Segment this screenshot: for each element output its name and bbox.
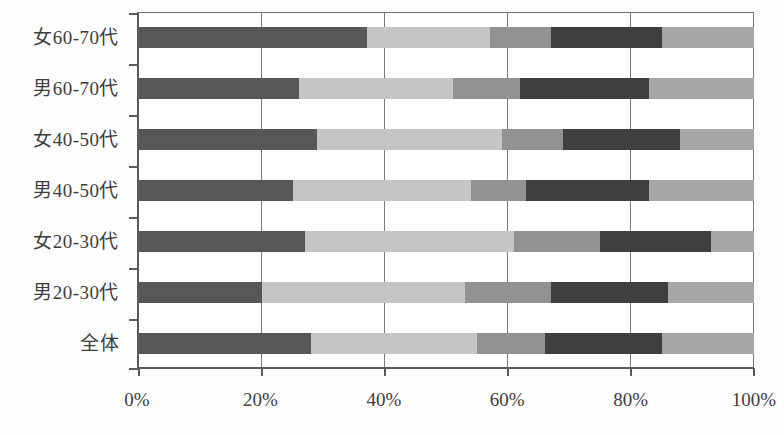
bar-女20-30代	[139, 231, 754, 252]
bar-segment-segment-1-dark-gray	[139, 282, 262, 303]
bar-segment-segment-2-light-gray	[317, 129, 502, 150]
bar-segment-segment-2-light-gray	[262, 282, 465, 303]
plot-area	[137, 12, 754, 369]
bar-segment-segment-4-darkest-gray	[600, 231, 711, 252]
bar-segment-segment-1-dark-gray	[139, 333, 311, 354]
bar-男20-30代	[139, 282, 754, 303]
bar-segment-segment-4-darkest-gray	[526, 180, 649, 201]
y-axis-tick	[129, 319, 138, 321]
x-axis-tick	[261, 368, 263, 376]
category-label: 男20-30代	[0, 267, 119, 318]
y-axis-labels: 女60-70代男60-70代女40-50代男40-50代女20-30代男20-3…	[0, 12, 127, 369]
y-axis-tick	[129, 217, 138, 219]
bar-segment-segment-1-dark-gray	[139, 78, 299, 99]
x-axis-tick	[507, 368, 509, 376]
bar-segment-segment-5-medium-light-gray	[668, 282, 754, 303]
bar-segment-segment-1-dark-gray	[139, 27, 367, 48]
x-axis-labels: 0%20%40%60%80%100%	[137, 389, 754, 419]
bar-segment-segment-5-medium-light-gray	[662, 333, 754, 354]
bar-segment-segment-3-medium-gray	[465, 282, 551, 303]
category-label: 男40-50代	[0, 165, 119, 216]
x-axis-tick	[630, 368, 632, 376]
x-tick-label: 80%	[613, 389, 648, 411]
bar-全体	[139, 333, 754, 354]
bar-segment-segment-5-medium-light-gray	[649, 78, 754, 99]
y-axis-tick	[129, 64, 138, 66]
bar-segment-segment-4-darkest-gray	[563, 129, 680, 150]
bar-segment-segment-1-dark-gray	[139, 231, 305, 252]
bar-segment-segment-3-medium-gray	[502, 129, 564, 150]
bar-segment-segment-2-light-gray	[367, 27, 490, 48]
bar-segment-segment-2-light-gray	[305, 231, 514, 252]
x-tick-label: 100%	[732, 389, 776, 411]
bar-segment-segment-3-medium-gray	[514, 231, 600, 252]
x-axis-tick	[753, 368, 755, 376]
category-label: 女40-50代	[0, 114, 119, 165]
bar-segment-segment-3-medium-gray	[490, 27, 552, 48]
y-axis-tick	[129, 13, 138, 15]
bar-segment-segment-2-light-gray	[311, 333, 477, 354]
bar-segment-segment-3-medium-gray	[477, 333, 545, 354]
category-label: 女20-30代	[0, 216, 119, 267]
bar-男60-70代	[139, 78, 754, 99]
bar-segment-segment-4-darkest-gray	[545, 333, 662, 354]
bar-segment-segment-5-medium-light-gray	[662, 27, 754, 48]
y-axis-tick	[129, 368, 138, 370]
x-tick-label: 0%	[124, 389, 149, 411]
bar-女60-70代	[139, 27, 754, 48]
bar-segment-segment-5-medium-light-gray	[680, 129, 754, 150]
x-tick-label: 40%	[366, 389, 401, 411]
bar-segment-segment-5-medium-light-gray	[711, 231, 754, 252]
bar-segment-segment-2-light-gray	[293, 180, 471, 201]
bar-segment-segment-1-dark-gray	[139, 129, 317, 150]
bar-segment-segment-1-dark-gray	[139, 180, 293, 201]
x-axis-tick	[138, 368, 140, 376]
bar-女40-50代	[139, 129, 754, 150]
category-label: 男60-70代	[0, 63, 119, 114]
bar-男40-50代	[139, 180, 754, 201]
bar-segment-segment-5-medium-light-gray	[649, 180, 754, 201]
bar-segment-segment-3-medium-gray	[471, 180, 526, 201]
stacked-bar-chart: 女60-70代男60-70代女40-50代男40-50代女20-30代男20-3…	[0, 0, 784, 435]
bar-segment-segment-4-darkest-gray	[551, 282, 668, 303]
x-tick-label: 20%	[243, 389, 278, 411]
bar-segment-segment-4-darkest-gray	[551, 27, 662, 48]
y-axis-tick	[129, 166, 138, 168]
x-axis-tick	[384, 368, 386, 376]
bar-segment-segment-2-light-gray	[299, 78, 453, 99]
bar-segment-segment-4-darkest-gray	[520, 78, 649, 99]
category-label: 全体	[0, 318, 119, 369]
y-axis-tick	[129, 268, 138, 270]
category-label: 女60-70代	[0, 12, 119, 63]
x-tick-label: 60%	[490, 389, 525, 411]
bar-segment-segment-3-medium-gray	[453, 78, 521, 99]
y-axis-tick	[129, 115, 138, 117]
